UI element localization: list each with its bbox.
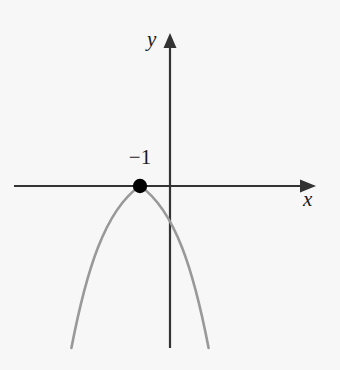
vertex-point-marker	[133, 179, 147, 193]
x-axis-label: x	[303, 189, 312, 210]
y-axis-label: y	[147, 29, 156, 50]
y-axis-arrowhead	[164, 33, 177, 48]
parabola-diagram: y x −1	[0, 0, 340, 370]
coordinate-plane-svg	[0, 0, 340, 370]
parabola-curve	[71, 186, 208, 348]
vertex-value-label: −1	[118, 147, 162, 168]
